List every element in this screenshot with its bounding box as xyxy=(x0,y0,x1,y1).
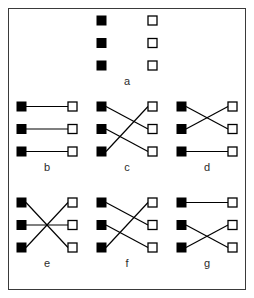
panel-a-graph xyxy=(96,14,158,72)
edge-L3-R1 xyxy=(106,107,148,152)
node-left-2 xyxy=(97,39,106,48)
panel-a: a xyxy=(96,14,158,87)
node-right-1 xyxy=(68,102,77,111)
node-right-3 xyxy=(148,61,157,70)
node-right-3 xyxy=(68,243,77,252)
node-left-2 xyxy=(177,125,186,134)
panel-b-graph xyxy=(16,100,78,158)
edge-L1-R2 xyxy=(106,203,148,226)
node-right-2 xyxy=(148,221,157,230)
node-right-1 xyxy=(68,198,77,207)
node-left-1 xyxy=(97,198,106,207)
node-left-1 xyxy=(17,198,26,207)
node-right-2 xyxy=(68,125,77,134)
node-right-1 xyxy=(228,102,237,111)
panel-a-label: a xyxy=(96,75,158,87)
node-left-3 xyxy=(17,147,26,156)
node-right-2 xyxy=(228,221,237,230)
node-right-3 xyxy=(68,147,77,156)
panel-grid: abcdefg xyxy=(0,0,254,298)
panel-c-graph xyxy=(96,100,158,158)
edge-L1-R2 xyxy=(106,107,148,130)
node-left-3 xyxy=(97,147,106,156)
node-right-2 xyxy=(228,125,237,134)
node-right-1 xyxy=(148,102,157,111)
node-left-2 xyxy=(97,125,106,134)
panel-c: c xyxy=(96,100,158,173)
node-left-1 xyxy=(17,102,26,111)
panel-e-label: e xyxy=(16,257,78,269)
node-left-3 xyxy=(177,243,186,252)
panel-d: d xyxy=(176,100,238,173)
panel-e-graph xyxy=(16,196,78,254)
panel-b: b xyxy=(16,100,78,173)
node-left-1 xyxy=(177,198,186,207)
node-left-1 xyxy=(97,102,106,111)
edge-L3-R1 xyxy=(106,203,148,248)
node-left-2 xyxy=(17,125,26,134)
node-left-3 xyxy=(177,147,186,156)
edge-L2-R3 xyxy=(106,225,148,248)
panel-d-label: d xyxy=(176,161,238,173)
node-right-2 xyxy=(148,39,157,48)
node-left-3 xyxy=(97,61,106,70)
panel-g-graph xyxy=(176,196,238,254)
panel-d-graph xyxy=(176,100,238,158)
node-left-2 xyxy=(177,221,186,230)
node-left-2 xyxy=(17,221,26,230)
panel-f-label: f xyxy=(96,257,158,269)
node-right-3 xyxy=(228,147,237,156)
node-right-2 xyxy=(148,125,157,134)
panel-e: e xyxy=(16,196,78,269)
node-right-1 xyxy=(148,198,157,207)
panel-g-label: g xyxy=(176,257,238,269)
node-right-3 xyxy=(228,243,237,252)
node-right-2 xyxy=(68,221,77,230)
node-left-3 xyxy=(17,243,26,252)
panel-c-label: c xyxy=(96,161,158,173)
figure-root: abcdefg xyxy=(0,0,254,298)
node-left-1 xyxy=(97,16,106,25)
node-left-3 xyxy=(97,243,106,252)
node-right-1 xyxy=(228,198,237,207)
panel-f-graph xyxy=(96,196,158,254)
panel-f: f xyxy=(96,196,158,269)
node-right-1 xyxy=(148,16,157,25)
node-right-3 xyxy=(148,243,157,252)
node-right-3 xyxy=(148,147,157,156)
node-left-1 xyxy=(177,102,186,111)
edge-L2-R3 xyxy=(106,129,148,152)
panel-b-label: b xyxy=(16,161,78,173)
node-left-2 xyxy=(97,221,106,230)
panel-g: g xyxy=(176,196,238,269)
